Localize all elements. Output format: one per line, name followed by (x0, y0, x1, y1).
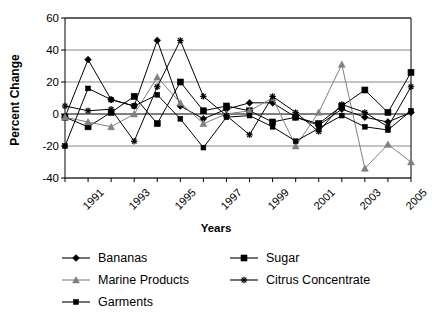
data-point (339, 113, 344, 118)
series-line-citrus-concentrate (65, 40, 411, 141)
data-point (246, 99, 253, 106)
data-point (386, 128, 391, 133)
legend-label: Citrus Concentrate (266, 273, 370, 287)
data-point (73, 255, 80, 262)
data-point (223, 103, 229, 109)
data-point (315, 109, 322, 115)
legend-label: Bananas (98, 251, 147, 265)
data-point (200, 93, 206, 99)
legend-marker-icon (60, 273, 92, 287)
data-point (86, 86, 91, 91)
data-point (408, 84, 414, 90)
data-point (270, 124, 275, 129)
data-point (362, 87, 368, 93)
data-point (177, 37, 183, 43)
legend-marker-icon (228, 273, 260, 287)
data-point (85, 56, 92, 63)
legend-label: Garments (98, 295, 153, 309)
data-point (131, 138, 137, 144)
data-point (292, 109, 298, 115)
data-point (154, 37, 161, 44)
data-point (200, 108, 206, 114)
data-point (385, 109, 391, 115)
data-point (74, 300, 79, 305)
data-point (177, 79, 183, 85)
data-point (131, 93, 137, 99)
data-point (362, 124, 367, 129)
legend-label: Marine Products (98, 273, 189, 287)
legend-marker-icon (228, 251, 260, 265)
legend-marker-icon (60, 295, 92, 309)
data-point (408, 159, 415, 165)
data-point (63, 144, 68, 149)
legend-item-bananas[interactable]: Bananas (60, 249, 147, 267)
data-point (339, 101, 345, 107)
series-line-sugar (65, 72, 411, 126)
data-point (109, 97, 114, 102)
legend-marker-icon (60, 251, 92, 265)
chart-legend: BananasSugarMarine ProductsCitrus Concen… (60, 249, 420, 315)
data-point (178, 116, 183, 121)
data-point (247, 113, 252, 118)
x-axis-title: Years (0, 222, 432, 234)
data-point (246, 132, 252, 138)
data-point (270, 119, 276, 125)
data-point (241, 255, 247, 261)
data-point (269, 93, 275, 99)
data-point (62, 103, 68, 109)
data-point (409, 108, 414, 113)
data-point (316, 126, 321, 131)
legend-label: Sugar (266, 251, 299, 265)
data-point (241, 277, 247, 283)
legend-item-marine-products[interactable]: Marine Products (60, 271, 189, 289)
data-point (154, 84, 160, 90)
data-point (224, 115, 229, 120)
data-point (85, 108, 91, 114)
data-point (293, 139, 298, 144)
data-point (154, 121, 160, 127)
data-point (155, 92, 160, 97)
data-point (201, 145, 206, 150)
data-point (338, 61, 345, 67)
data-point (362, 109, 368, 115)
data-point (108, 106, 114, 112)
legend-item-citrus-concentrate[interactable]: Citrus Concentrate (228, 271, 370, 289)
legend-item-sugar[interactable]: Sugar (228, 249, 299, 267)
data-point (154, 74, 161, 80)
data-point (385, 141, 392, 147)
data-point (132, 104, 137, 109)
chart-figure: Percent Change 6040200-20-40 19911993199… (0, 0, 432, 322)
data-point (408, 69, 414, 75)
legend-item-garments[interactable]: Garments (60, 293, 153, 311)
